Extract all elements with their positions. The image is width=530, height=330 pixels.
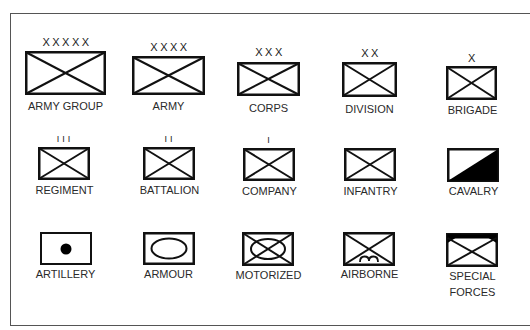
echelon-mark-brigade: X bbox=[446, 53, 500, 64]
label-artillery: ARTILLERY bbox=[25, 267, 106, 283]
label-special-forces: SPECIAL FORCES bbox=[432, 269, 513, 301]
armour-oval-icon bbox=[143, 232, 195, 265]
label-corps: CORPS bbox=[228, 101, 309, 117]
infantry-cross-icon bbox=[25, 51, 106, 95]
artillery-dot-icon bbox=[40, 232, 92, 265]
infantry-cross-icon bbox=[446, 66, 497, 100]
echelon-mark-division: XX bbox=[342, 48, 400, 59]
echelon-mark-regiment: III bbox=[38, 135, 92, 144]
label-army-group: ARMY GROUP bbox=[15, 99, 116, 115]
infantry-cross-icon bbox=[132, 56, 205, 95]
infantry-cross-icon bbox=[237, 62, 300, 96]
echelon-mark-army-group: XXXXX bbox=[25, 37, 109, 48]
label-company: COMPANY bbox=[229, 184, 310, 200]
label-airborne: AIRBORNE bbox=[329, 267, 410, 283]
label-brigade: BRIGADE bbox=[432, 103, 513, 119]
echelon-mark-army: XXXX bbox=[132, 42, 208, 53]
airborne-wings-icon bbox=[343, 232, 395, 266]
infantry-cross-icon bbox=[243, 148, 295, 181]
infantry-cross-icon bbox=[38, 147, 90, 180]
echelon-mark-company: I bbox=[243, 136, 297, 145]
label-army: ARMY bbox=[128, 99, 209, 115]
label-division: DIVISION bbox=[329, 102, 410, 118]
motorized-cross-oval-icon bbox=[242, 232, 294, 266]
infantry-cross-icon bbox=[344, 148, 396, 181]
label-armour: ARMOUR bbox=[128, 267, 209, 283]
special-forces-icon bbox=[446, 233, 498, 267]
echelon-mark-corps: XXX bbox=[237, 47, 303, 58]
label-motorized: MOTORIZED bbox=[228, 268, 309, 284]
echelon-mark-battalion: II bbox=[143, 135, 197, 144]
label-regiment: REGIMENT bbox=[24, 183, 105, 199]
infantry-cross-icon bbox=[342, 62, 397, 97]
cavalry-diagonal-icon bbox=[447, 148, 499, 182]
label-cavalry: CAVALRY bbox=[433, 184, 514, 200]
infantry-cross-icon bbox=[143, 147, 195, 180]
label-battalion: BATTALION bbox=[129, 183, 210, 199]
label-infantry: INFANTRY bbox=[330, 184, 411, 200]
